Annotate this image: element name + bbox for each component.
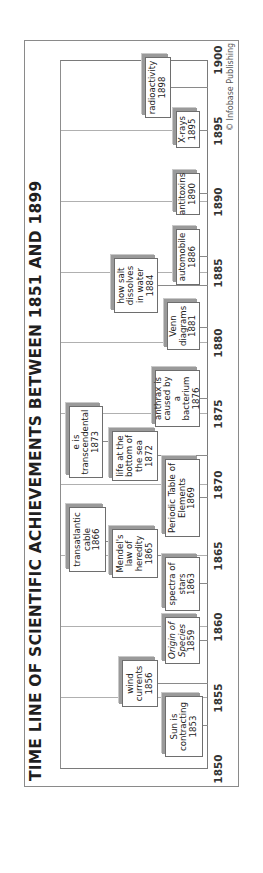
event-box: Venn diagrams1881 xyxy=(167,302,200,350)
event-box: e is transcendental1873 xyxy=(69,406,103,478)
event-label: spectra of stars xyxy=(168,560,187,608)
tick-label: 1870 xyxy=(212,465,224,505)
event-label: Origin of Species xyxy=(168,620,187,661)
event-box: wind currents1856 xyxy=(122,660,158,707)
diagram-title: TIME LINE OF SCIENTIFIC ACHIEVEMENTS BET… xyxy=(27,181,45,781)
tick-label: 1900 xyxy=(212,40,224,80)
event-year: 1859 xyxy=(187,620,197,661)
tick-label: 1850 xyxy=(212,749,224,789)
event-year: 1876 xyxy=(192,373,202,424)
event-year: 1886 xyxy=(188,233,198,282)
event-box: life at the bottom of the sea1872 xyxy=(112,431,158,481)
tick-label: 1895 xyxy=(212,111,224,151)
event-year: 1884 xyxy=(146,261,156,310)
timeline-diagram: TIME LINE OF SCIENTIFIC ACHIEVEMENTS BET… xyxy=(0,0,263,873)
tick-label: 1875 xyxy=(212,394,224,434)
event-box: antitoxins1890 xyxy=(176,173,200,215)
tick-label: 1865 xyxy=(212,536,224,576)
event-box: spectra of stars1863 xyxy=(165,557,200,611)
tick-label: 1860 xyxy=(212,607,224,647)
event-year: 1856 xyxy=(145,663,155,704)
event-year: 1898 xyxy=(158,61,168,115)
event-label: how salt dissolves in water xyxy=(117,261,146,310)
event-box: Mendel's law of heredity1865 xyxy=(112,529,158,578)
event-year: 1895 xyxy=(188,116,198,143)
event-label: wind currents xyxy=(126,663,145,704)
event-year: 1873 xyxy=(91,409,101,475)
event-box: how salt dissolves in water1884 xyxy=(114,258,158,313)
tick-label: 1890 xyxy=(212,182,224,222)
tick-label: 1880 xyxy=(212,323,224,363)
event-year: 1869 xyxy=(187,462,197,534)
event-label: transatlantic cable xyxy=(73,510,92,569)
event-label: anthrax is caused by a bacterium xyxy=(154,373,192,424)
event-box: transatlantic cable1866 xyxy=(69,507,106,572)
event-box: anthrax is caused by a bacterium1876 xyxy=(155,370,200,427)
tick-label: 1885 xyxy=(212,253,224,293)
event-label: Mendel's law of heredity xyxy=(116,532,145,575)
event-label: life at the bottom of the sea xyxy=(116,434,145,478)
event-year: 1890 xyxy=(188,173,198,215)
event-label: Sun is contracting xyxy=(170,699,189,754)
event-box: X-rays1895 xyxy=(176,111,200,148)
tick-label: 1855 xyxy=(212,678,224,718)
copyright-credit: © Infobase Publishing xyxy=(226,43,235,131)
event-box: automobile1886 xyxy=(176,229,200,285)
event-box: Periodic Table of Elements1869 xyxy=(165,459,200,537)
event-year: 1853 xyxy=(189,699,199,754)
event-label: Venn diagrams xyxy=(169,305,188,347)
event-box: Sun is contracting1853 xyxy=(165,696,203,757)
event-year: 1881 xyxy=(188,305,198,347)
event-year: 1865 xyxy=(145,532,155,575)
event-box: radioactivity1898 xyxy=(145,57,171,118)
event-year: 1863 xyxy=(187,560,197,608)
event-label: e is transcendental xyxy=(72,409,91,475)
event-label: Periodic Table of Elements xyxy=(168,462,187,534)
event-year: 1866 xyxy=(92,510,102,569)
event-box: Origin of Species1859 xyxy=(165,617,200,664)
event-year: 1872 xyxy=(145,434,155,478)
